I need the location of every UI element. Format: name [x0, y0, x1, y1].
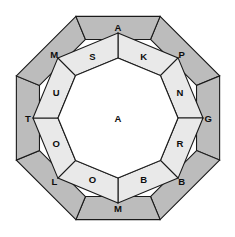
outer-ring-label-left-lower: M [50, 49, 58, 60]
outer-ring-label-right-upper: B [178, 176, 185, 187]
inner-ring-label-left-upper: S [89, 51, 95, 62]
inner-ring-label-bottom-right: O [89, 174, 96, 185]
octagon-diagram-canvas: PGBMLTMA KNRBOOUS A [0, 0, 235, 237]
octagon-diagram: PGBMLTMA KNRBOOUS A [0, 0, 235, 237]
outer-ring-label-right-lower: M [114, 203, 122, 214]
outer-ring-label-left-upper: A [115, 22, 122, 33]
center-cell-label: A [115, 113, 122, 124]
inner-ring-label-left-lower: U [53, 87, 60, 98]
outer-ring-label-bottom-left: T [25, 113, 31, 124]
inner-ring-label-top-left: K [140, 51, 147, 62]
inner-ring-label-right-lower: B [140, 174, 147, 185]
inner-ring-label-right-upper: R [176, 138, 183, 149]
inner-ring-label-top-right: N [176, 87, 183, 98]
inner-ring-label-bottom-left: O [52, 138, 59, 149]
outer-ring-label-bottom-right: L [51, 176, 57, 187]
outer-ring-label-top-left: P [179, 49, 186, 60]
outer-ring-label-top-right: G [204, 113, 211, 124]
center-cell-label-group: A [115, 113, 122, 124]
